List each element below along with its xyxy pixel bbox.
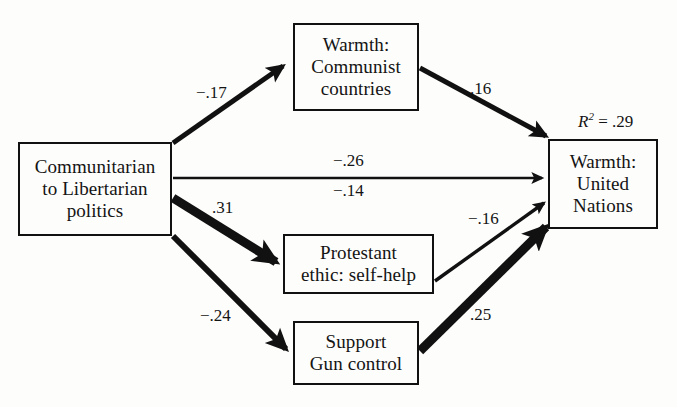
node-line: Warmth: <box>323 34 390 56</box>
edge-label-gun-to-un: .25 <box>470 306 491 323</box>
edge-label-politics-to-un-upper: −.26 <box>333 152 364 169</box>
edge-label-politics-to-protestant: .31 <box>212 199 233 216</box>
node-warmth-communist-countries[interactable]: Warmth: Communist countries <box>293 23 419 111</box>
edge-label-politics-to-gun: −.24 <box>200 307 231 324</box>
node-line: Communitarian <box>35 156 156 178</box>
node-line: ethic: self-help <box>301 264 416 286</box>
path-diagram-figure: Communitarian to Libertarian politics Wa… <box>0 0 677 407</box>
node-line: countries <box>321 78 392 100</box>
node-support-gun-control[interactable]: Support Gun control <box>293 321 419 385</box>
node-line: Gun control <box>310 353 402 375</box>
node-line: Communist <box>311 56 401 78</box>
node-line: Warmth: <box>570 151 637 173</box>
edge-label-politics-to-communist: −.17 <box>196 84 227 101</box>
edge-label-communist-to-un: .16 <box>470 80 491 97</box>
r-squared-annotation: R2 = .29 <box>578 113 633 130</box>
node-line: Support <box>326 331 387 353</box>
r-squared-value: = .29 <box>594 112 633 131</box>
node-protestant-ethic-self-help[interactable]: Protestant ethic: self-help <box>283 234 434 294</box>
node-line: to Libertarian <box>42 178 147 200</box>
node-line: Nations <box>573 195 633 217</box>
edge-label-politics-to-un-lower: −.14 <box>333 182 364 199</box>
node-line: Protestant <box>320 242 397 264</box>
node-line: United <box>577 173 629 195</box>
node-line: politics <box>67 200 124 222</box>
edge-politics-to-communist <box>173 66 283 143</box>
r-squared-symbol: R <box>578 112 588 131</box>
node-warmth-united-nations[interactable]: Warmth: United Nations <box>548 139 658 229</box>
edge-label-protestant-to-un: −.16 <box>468 210 499 227</box>
node-communitarian-libertarian-politics[interactable]: Communitarian to Libertarian politics <box>18 142 172 236</box>
